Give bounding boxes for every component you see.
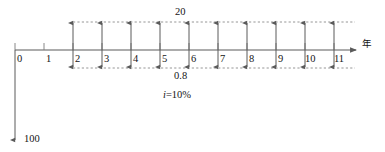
- tick-label-11: 11: [334, 54, 344, 65]
- tick-label-0: 0: [17, 54, 22, 65]
- cash-flow-vector-layer: [0, 0, 385, 152]
- tick-label-5: 5: [162, 54, 167, 65]
- axis-unit-label: 年: [362, 39, 372, 49]
- tick-label-7: 7: [220, 54, 225, 65]
- upper-series-value-label: 20: [175, 7, 186, 18]
- tick-label-6: 6: [191, 54, 196, 65]
- outflow-arrows-group: [73, 50, 334, 67]
- initial-outflow-value-label: 100: [24, 134, 40, 145]
- interest-rate-label: i=10%: [163, 90, 191, 101]
- tick-label-9: 9: [278, 54, 283, 65]
- tick-label-8: 8: [249, 54, 254, 65]
- tick-label-2: 2: [75, 54, 80, 65]
- tick-label-3: 3: [104, 54, 109, 65]
- tick-label-4: 4: [133, 54, 138, 65]
- interest-rate-value: =10%: [166, 89, 191, 100]
- lower-series-value-label: 0.8: [174, 71, 187, 82]
- inflow-arrows-group: [73, 23, 334, 50]
- axis-tick-marks: [15, 43, 334, 50]
- tick-label-10: 10: [305, 54, 316, 65]
- tick-label-1: 1: [46, 54, 51, 65]
- cash-flow-diagram: 0 1 2 3 4 5 6 7 8 9 10 11 20 0.8 i=10% 1…: [0, 0, 385, 152]
